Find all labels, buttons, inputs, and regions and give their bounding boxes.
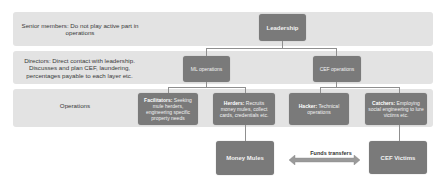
node-cef-operations-label: CEF operations [320,66,355,72]
connector-ml-horizontal [168,87,246,88]
node-facilitators: Facilitators: Seeking mule herders, engi… [138,93,198,125]
connector-cef-horizontal [320,87,400,88]
band-label-operations: Operations [30,100,120,112]
node-catchers: Catchers: Employing social engineering t… [365,93,427,125]
node-ml-operations-label: ML operations [191,66,223,72]
band-label-directors: Directors: Direct contact with leadershi… [12,55,147,81]
connector-leadership-down [282,40,283,48]
node-money-mules: Money Mules [216,141,274,175]
node-cef-victims: CEF Victims [369,141,427,174]
connector-catchers-to-victims [399,124,400,141]
band-label-senior: Senior members: Do not play active part … [15,20,145,38]
connector-herders-to-mules [245,124,246,141]
node-leadership: Leadership [259,14,306,41]
node-hacker: Hacker: Technical operations [289,93,349,125]
node-herders: Herders: Recruits money mules, collect c… [213,93,275,125]
node-cef-operations: CEF operations [313,56,361,82]
node-ml-operations: ML operations [183,56,230,82]
connector-directors-horizontal [206,48,337,49]
double-arrow-icon [289,155,360,165]
